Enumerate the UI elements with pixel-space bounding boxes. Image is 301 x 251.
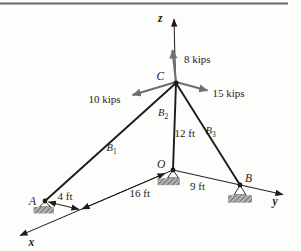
dim-16ft-arrow-to-junction (82, 192, 122, 209)
dim-4ft-label: 4 ft (58, 190, 73, 202)
x-axis-label: x (28, 236, 35, 248)
point-c-label: C (157, 70, 165, 82)
point-o-label: O (157, 158, 166, 170)
statics-figure: z x y C O A B 8 kips 10 kips 15 kips 12 … (0, 0, 301, 251)
force-10kips-label: 10 kips (89, 93, 121, 105)
dim-16ft-label: 16 ft (130, 187, 150, 199)
point-a-dot (43, 199, 48, 204)
support-b (228, 185, 252, 203)
cable-b3-label: B3 (206, 125, 216, 139)
cable-b1-label: B1 (107, 142, 117, 156)
z-axis-label: z (157, 12, 163, 24)
point-c-dot (174, 81, 179, 86)
force-15kips-label: 15 kips (213, 87, 245, 99)
point-o-dot (171, 168, 176, 173)
force-8kips-label: 8 kips (184, 53, 211, 65)
point-b-label: B (245, 172, 252, 184)
y-axis-label: y (271, 195, 279, 208)
point-b-dot (238, 183, 243, 188)
point-a-label: A (28, 195, 37, 207)
dim-12ft-label: 12 ft (175, 127, 195, 139)
dim-9ft-label: 9 ft (190, 180, 205, 192)
cable-b2-label: B2 (158, 107, 168, 121)
statics-diagram: z x y C O A B 8 kips 10 kips 15 kips 12 … (0, 0, 301, 251)
